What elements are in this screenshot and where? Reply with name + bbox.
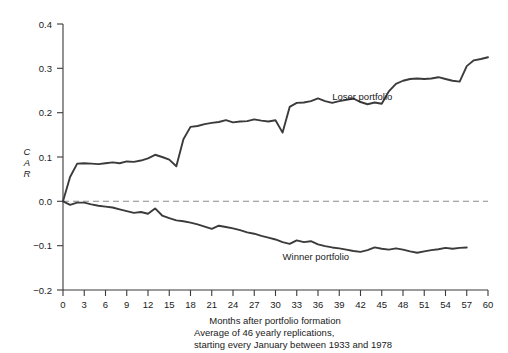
y-tick-label--0.2: −0.2 [33, 285, 52, 296]
x-tick-label-12: 12 [143, 299, 154, 310]
x-tick-label-9: 9 [124, 299, 129, 310]
caption-line-1: Average of 46 yearly replications, [194, 327, 334, 338]
x-tick-label-39: 39 [334, 299, 345, 310]
x-tick-label-42: 42 [355, 299, 366, 310]
y-axis-title: C A R [23, 146, 31, 179]
y-tick-label-0.4: 0.4 [39, 19, 52, 30]
y-tick-label-0.1: 0.1 [39, 152, 52, 163]
x-tick-label-30: 30 [270, 299, 281, 310]
x-tick-label-21: 21 [206, 299, 217, 310]
y-tick-label-0.3: 0.3 [39, 63, 52, 74]
y-ticks [57, 24, 63, 290]
x-axis-title: Months after portfolio formation [209, 315, 340, 326]
x-tick-labels: 0 3 6 9 12 15 18 21 24 27 30 33 36 39 42… [60, 299, 493, 310]
x-tick-label-54: 54 [440, 299, 451, 310]
loser-portfolio-line [63, 57, 488, 201]
winner-portfolio-label: Winner portfolio [283, 251, 350, 262]
caption: Average of 46 yearly replications, start… [194, 327, 392, 350]
x-tick-label-18: 18 [185, 299, 196, 310]
y-tick-label--0.1: −0.1 [33, 240, 52, 251]
x-tick-label-57: 57 [461, 299, 472, 310]
y-tick-label-0.0: 0.0 [39, 196, 52, 207]
x-tick-label-3: 3 [82, 299, 87, 310]
x-tick-label-45: 45 [376, 299, 387, 310]
caption-line-2: starting every January between 1933 and … [194, 339, 392, 350]
x-tick-label-0: 0 [60, 299, 65, 310]
x-tick-label-24: 24 [228, 299, 239, 310]
x-ticks [63, 290, 488, 296]
y-axis-title-letter-a: A [23, 157, 30, 168]
x-tick-label-33: 33 [291, 299, 302, 310]
x-tick-label-27: 27 [249, 299, 260, 310]
figure-container: 0.4 0.3 0.2 0.1 0.0 −0.1 −0.2 C A R [0, 0, 508, 353]
y-tick-label-0.2: 0.2 [39, 107, 52, 118]
x-tick-label-48: 48 [398, 299, 409, 310]
car-line-chart: 0.4 0.3 0.2 0.1 0.0 −0.1 −0.2 C A R [0, 0, 508, 353]
x-tick-label-51: 51 [419, 299, 430, 310]
loser-portfolio-label: Loser portfolio [332, 91, 392, 102]
x-tick-label-36: 36 [313, 299, 324, 310]
x-axis: 0 3 6 9 12 15 18 21 24 27 30 33 36 39 42… [60, 290, 493, 326]
winner-portfolio-line [63, 201, 467, 252]
y-axis: 0.4 0.3 0.2 0.1 0.0 −0.1 −0.2 C A R [23, 19, 63, 296]
y-tick-labels: 0.4 0.3 0.2 0.1 0.0 −0.1 −0.2 [33, 19, 52, 296]
y-axis-title-letter-c: C [24, 146, 31, 157]
x-tick-label-15: 15 [164, 299, 175, 310]
x-tick-label-6: 6 [103, 299, 108, 310]
y-axis-title-letter-r: R [24, 168, 31, 179]
x-tick-label-60: 60 [483, 299, 494, 310]
